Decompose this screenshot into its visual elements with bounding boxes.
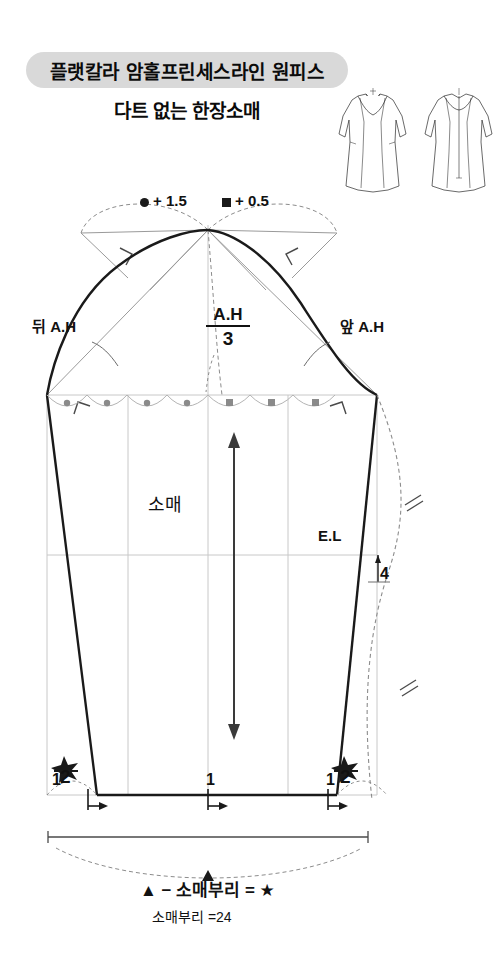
right-seam-dashed-curve: [367, 395, 401, 800]
cap-height-fraction: A.H 3: [206, 306, 250, 348]
sleeve-pattern-diagram: [0, 170, 502, 970]
pattern-sheet: 플랫칼라 암홀프린세스라인 원피스 다트 없는 한장소매: [0, 0, 502, 970]
legend-square-note: + 0.5: [222, 192, 269, 209]
square-marker-icon: [222, 198, 231, 207]
circle-marker-icon: [140, 198, 149, 207]
front-armhole-label: 앞 A.H: [340, 315, 384, 336]
footer-formula: ▲ − 소매부리 = ★: [140, 876, 275, 901]
back-armhole-label: 뒤 A.H: [32, 315, 76, 336]
seam-balance-notches: [400, 495, 423, 696]
hem-dashed-arcs: [47, 781, 387, 795]
hem-step-arrows: [88, 789, 348, 810]
elbow-offset-label: 4: [380, 565, 389, 583]
cap-height-leader: [206, 355, 214, 392]
hem-star-denominator-left: 2: [60, 766, 71, 788]
footer-measurement: 소매부리 =24: [152, 906, 232, 926]
hem-step-center-label: 1: [206, 771, 215, 789]
hem-step-right-label: 1: [326, 771, 335, 789]
fraction-bar: [206, 325, 250, 327]
total-width-scale-bar: [48, 831, 368, 843]
legend-circle-note: + 1.5: [140, 192, 187, 209]
piece-name-label: 소매: [148, 490, 182, 516]
cap-height-denominator: 3: [206, 329, 250, 348]
cap-height-numerator: A.H: [206, 306, 250, 323]
grainline-arrow: [228, 432, 240, 740]
hem-star-symbols: [51, 756, 358, 783]
page-subtitle: 다트 없는 한장소매: [26, 95, 348, 123]
hem-star-denominator-right: 2: [340, 766, 351, 788]
ease-scallops: [47, 395, 335, 406]
page-title: 플랫칼라 암홀프린세스라인 원피스: [26, 52, 348, 88]
elbow-line-label: E.L: [318, 527, 341, 544]
